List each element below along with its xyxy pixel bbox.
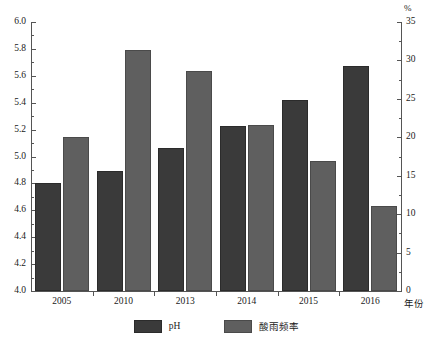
x-axis-tick	[278, 292, 279, 296]
x-axis-title: 年份	[404, 296, 424, 310]
left-axis-tick-label: 5.8	[0, 43, 26, 53]
right-axis-tick	[397, 291, 402, 292]
x-axis-tick-label: 2015	[284, 296, 334, 306]
legend-swatch-icon	[224, 320, 252, 333]
acid-rain-ph-chart: % 6.05.85.65.45.25.04.84.64.44.24.0 3530…	[0, 0, 433, 341]
right-axis-tick-label: 20	[406, 131, 432, 141]
bar-ph-2015	[282, 100, 308, 291]
left-axis-tick-label: 5.6	[0, 70, 26, 80]
legend-swatch-icon	[134, 320, 162, 333]
bar-frequency-2016	[371, 206, 397, 291]
bar-ph-2010	[97, 171, 123, 291]
bar-frequency-2005	[63, 137, 89, 291]
legend-item-frequency[interactable]: 酸雨频率	[224, 319, 299, 333]
left-axis-tick	[31, 291, 36, 292]
left-axis-tick-label: 5.2	[0, 124, 26, 134]
right-axis-tick-label: 0	[406, 285, 432, 295]
x-axis-tick-label: 2016	[345, 296, 395, 306]
legend-item-ph[interactable]: pH	[134, 320, 181, 333]
left-axis-tick-label: 4.6	[0, 204, 26, 214]
x-axis-tick	[216, 292, 217, 296]
x-axis-tick	[93, 292, 94, 296]
left-axis-tick-label: 5.4	[0, 97, 26, 107]
left-axis-tick-label: 6.0	[0, 16, 26, 26]
legend-label: 酸雨频率	[259, 319, 299, 333]
left-axis-tick-label: 4.8	[0, 177, 26, 187]
bar-ph-2013	[158, 148, 184, 291]
right-axis-tick-label: 25	[406, 93, 432, 103]
x-axis-tick-label: 2010	[99, 296, 149, 306]
bar-frequency-2014	[248, 125, 274, 291]
x-axis-tick-label: 2005	[37, 296, 87, 306]
chart-legend: pH酸雨频率	[0, 316, 433, 336]
x-axis-tick-label: 2014	[222, 296, 272, 306]
bar-frequency-2010	[125, 50, 151, 291]
bar-frequency-2013	[186, 71, 212, 291]
x-axis-tick	[339, 292, 340, 296]
bar-frequency-2015	[310, 161, 336, 291]
bar-ph-2005	[35, 183, 61, 291]
plot-area	[31, 22, 401, 291]
bar-ph-2014	[220, 126, 246, 291]
right-axis-tick-label: 15	[406, 170, 432, 180]
right-axis-tick-label: 35	[406, 16, 432, 26]
x-axis-tick-label: 2013	[160, 296, 210, 306]
left-axis-tick-label: 4.0	[0, 285, 26, 295]
x-axis-tick	[154, 292, 155, 296]
right-axis-tick-label: 30	[406, 54, 432, 64]
left-axis-tick-label: 4.2	[0, 258, 26, 268]
right-axis-tick-label: 10	[406, 208, 432, 218]
legend-label: pH	[169, 321, 181, 331]
left-axis-tick-label: 4.4	[0, 231, 26, 241]
bar-ph-2016	[343, 66, 369, 291]
right-axis-unit-label: %	[404, 3, 412, 13]
right-axis-tick-label: 5	[406, 247, 432, 257]
left-axis-tick-label: 5.0	[0, 151, 26, 161]
